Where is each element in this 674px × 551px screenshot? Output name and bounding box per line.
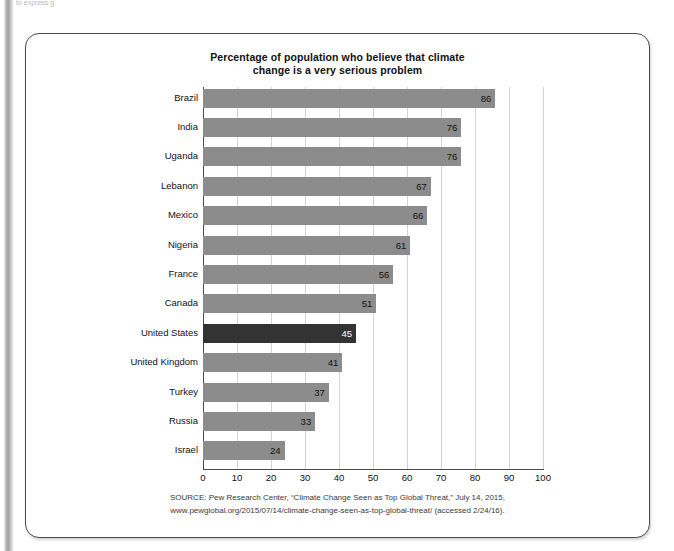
category-label: Israel xyxy=(38,443,198,457)
figure-card: Percentage of population who believe tha… xyxy=(25,33,650,538)
x-tick-label-20: 20 xyxy=(266,472,277,483)
bar-row: Russia33 xyxy=(203,412,543,438)
bar[interactable]: 76 xyxy=(203,147,461,166)
bar[interactable]: 41 xyxy=(203,353,342,372)
x-tick-label-80: 80 xyxy=(470,472,481,483)
bar-row: Nigeria61 xyxy=(203,236,543,262)
x-tick-label-10: 10 xyxy=(232,472,243,483)
bar[interactable]: 45 xyxy=(203,324,356,343)
x-tick-label-30: 30 xyxy=(300,472,311,483)
bar-value-label: 67 xyxy=(416,180,427,193)
bar-value-label: 56 xyxy=(379,268,390,281)
category-label: Turkey xyxy=(38,385,198,399)
bar-value-label: 41 xyxy=(328,356,339,369)
bar[interactable]: 76 xyxy=(203,118,461,137)
x-tick-label-50: 50 xyxy=(368,472,379,483)
bar[interactable]: 24 xyxy=(203,441,285,460)
category-label: Canada xyxy=(38,296,198,310)
bar-value-label: 45 xyxy=(341,327,352,340)
figure-title-line-1: Percentage of population who believe tha… xyxy=(210,51,465,63)
x-tick-label-60: 60 xyxy=(402,472,413,483)
bar[interactable]: 51 xyxy=(203,294,376,313)
bar[interactable]: 33 xyxy=(203,412,315,431)
x-tick-label-70: 70 xyxy=(436,472,447,483)
bar-row: United Kingdom41 xyxy=(203,353,543,379)
x-axis-ticks: 0102030405060708090100 xyxy=(203,472,543,488)
category-label: Brazil xyxy=(38,91,198,105)
page-title: Percentage of population who believe tha… xyxy=(26,51,649,77)
bar-value-label: 86 xyxy=(481,92,492,105)
category-label: Uganda xyxy=(38,149,198,163)
bar-row: Brazil86 xyxy=(203,89,543,115)
bar[interactable]: 56 xyxy=(203,265,393,284)
category-label: United Kingdom xyxy=(38,355,198,369)
gridline-100 xyxy=(543,87,544,469)
bar-value-label: 61 xyxy=(396,239,407,252)
bar-row: India76 xyxy=(203,118,543,144)
bar-value-label: 76 xyxy=(447,150,458,163)
bar[interactable]: 86 xyxy=(203,89,495,108)
bar-row: Uganda76 xyxy=(203,147,543,173)
bar-row: Israel24 xyxy=(203,441,543,467)
bar[interactable]: 66 xyxy=(203,206,427,225)
x-axis-line xyxy=(203,469,544,470)
source-line-1: SOURCE: Pew Research Center, “Climate Ch… xyxy=(66,492,609,505)
x-tick-label-0: 0 xyxy=(200,472,205,483)
bar-value-label: 76 xyxy=(447,121,458,134)
bar-value-label: 37 xyxy=(314,386,325,399)
bar-value-label: 51 xyxy=(362,297,373,310)
x-tick-label-100: 100 xyxy=(535,472,551,483)
bar[interactable]: 37 xyxy=(203,383,329,402)
figure-title-line-2: change is a very serious problem xyxy=(253,64,423,76)
bar-row: Turkey37 xyxy=(203,383,543,409)
bar-value-label: 66 xyxy=(413,209,424,222)
source-line-2: www.pewglobal.org/2015/07/14/climate-cha… xyxy=(66,505,609,518)
bar-value-label: 24 xyxy=(270,444,281,457)
x-tick-label-40: 40 xyxy=(334,472,345,483)
category-label: Russia xyxy=(38,414,198,428)
category-label: Lebanon xyxy=(38,179,198,193)
category-label: Nigeria xyxy=(38,238,198,252)
bar-row: Mexico66 xyxy=(203,206,543,232)
category-label: Mexico xyxy=(38,208,198,222)
bar-value-label: 33 xyxy=(301,415,312,428)
bar[interactable]: 67 xyxy=(203,177,431,196)
category-label: France xyxy=(38,267,198,281)
bar-chart: Brazil86India76Uganda76Lebanon67Mexico66… xyxy=(203,87,543,469)
plot-area: Brazil86India76Uganda76Lebanon67Mexico66… xyxy=(203,87,543,469)
category-label: United States xyxy=(38,326,198,340)
category-label: India xyxy=(38,120,198,134)
bar-row: Lebanon67 xyxy=(203,177,543,203)
cropped-top-text: to express g xyxy=(16,0,136,7)
x-tick-label-90: 90 xyxy=(504,472,515,483)
bar[interactable]: 61 xyxy=(203,236,410,255)
page-edge-gutter xyxy=(0,0,14,551)
bar-row: France56 xyxy=(203,265,543,291)
source-note: SOURCE: Pew Research Center, “Climate Ch… xyxy=(26,492,649,517)
bar-row: Canada51 xyxy=(203,294,543,320)
bar-row: United States45 xyxy=(203,324,543,350)
